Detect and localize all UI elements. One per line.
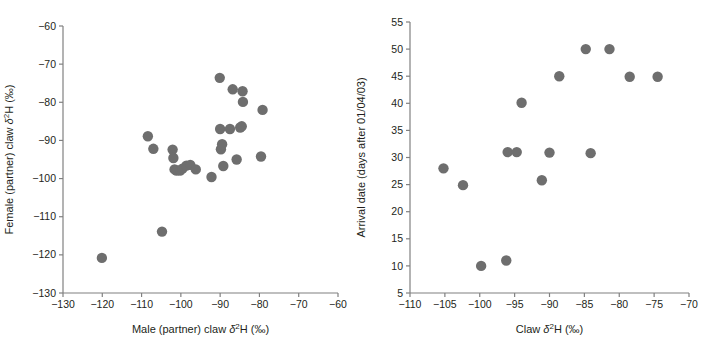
data-point — [168, 153, 178, 163]
figure-container: −130−120−110−100−90−80−70−60−130−120−110… — [0, 0, 703, 339]
scatter-panel-left: −130−120−110−100−90−80−70−60−130−120−110… — [0, 0, 352, 339]
x-tick-label: −130 — [51, 298, 75, 310]
data-point — [438, 163, 448, 173]
data-point — [157, 226, 167, 236]
data-point — [516, 98, 526, 108]
data-point — [237, 86, 247, 96]
x-tick-label: −90 — [541, 298, 559, 310]
data-point — [217, 139, 227, 149]
y-tick-label: −90 — [38, 134, 56, 146]
data-point — [625, 72, 635, 82]
y-tick-label: −120 — [32, 248, 56, 260]
data-point — [554, 71, 564, 81]
data-point — [231, 154, 241, 164]
x-tick-label: −100 — [169, 298, 193, 310]
y-tick-label: −70 — [38, 58, 56, 70]
figure-caption-partial — [0, 329, 703, 339]
data-point — [476, 261, 486, 271]
y-tick-label: 40 — [391, 97, 403, 109]
x-tick-label: −110 — [130, 298, 153, 310]
data-point — [604, 44, 614, 54]
y-tick-label: −110 — [33, 210, 56, 222]
x-tick-label: −95 — [506, 298, 524, 310]
x-tick-label: −75 — [645, 298, 663, 310]
data-point-group — [438, 44, 663, 271]
data-point — [215, 73, 225, 83]
data-point — [581, 44, 591, 54]
x-tick-label: −90 — [211, 298, 229, 310]
data-point-group — [97, 73, 268, 263]
data-point — [257, 105, 267, 115]
panel-right-svg: −110−105−100−95−90−85−80−75−705101520253… — [352, 0, 703, 339]
data-point — [537, 175, 547, 185]
data-point — [97, 253, 107, 263]
panel-left-svg: −130−120−110−100−90−80−70−60−130−120−110… — [0, 0, 352, 339]
data-point — [143, 131, 153, 141]
data-point — [225, 124, 235, 134]
data-point — [544, 147, 554, 157]
x-tick-label: −110 — [399, 298, 422, 310]
data-point — [652, 72, 662, 82]
scatter-panel-right: −110−105−100−95−90−85−80−75−705101520253… — [352, 0, 703, 339]
y-tick-label: 15 — [391, 232, 403, 244]
x-tick-label: −70 — [290, 298, 308, 310]
y-tick-label: 55 — [391, 16, 403, 28]
x-tick-label: −80 — [251, 298, 269, 310]
data-point — [238, 97, 248, 107]
y-tick-label: 5 — [397, 287, 403, 299]
data-point — [458, 180, 468, 190]
x-tick-label: −80 — [610, 298, 628, 310]
y-tick-label: −130 — [32, 287, 56, 299]
y-tick-label: 25 — [391, 178, 403, 190]
data-point — [228, 84, 238, 94]
y-tick-label: −60 — [38, 20, 56, 32]
data-point — [256, 151, 266, 161]
data-point — [501, 255, 511, 265]
y-tick-label: 35 — [391, 124, 403, 136]
y-axis-title: Arrival date (days after 01/04/03) — [355, 77, 367, 237]
y-tick-label: −80 — [38, 96, 56, 108]
y-tick-label: 20 — [391, 205, 403, 217]
data-point — [215, 124, 225, 134]
data-point — [502, 147, 512, 157]
y-tick-label: 10 — [391, 260, 403, 272]
data-point — [512, 147, 522, 157]
y-tick-label: −100 — [32, 172, 56, 184]
x-tick-label: −60 — [329, 298, 347, 310]
data-point — [191, 164, 201, 174]
y-tick-label: 45 — [391, 70, 403, 82]
y-tick-label: 30 — [391, 151, 403, 163]
data-point — [218, 161, 228, 171]
y-axis-title: Female (partner) claw δ2H (‰) — [2, 85, 16, 235]
x-tick-label: −100 — [468, 298, 492, 310]
x-tick-label: −70 — [680, 298, 698, 310]
data-point — [148, 144, 158, 154]
x-tick-label: −120 — [90, 298, 114, 310]
x-tick-label: −85 — [575, 298, 593, 310]
data-point — [206, 172, 216, 182]
data-point — [585, 148, 595, 158]
data-point — [237, 121, 247, 131]
y-tick-label: 50 — [391, 43, 403, 55]
x-tick-label: −105 — [433, 298, 457, 310]
